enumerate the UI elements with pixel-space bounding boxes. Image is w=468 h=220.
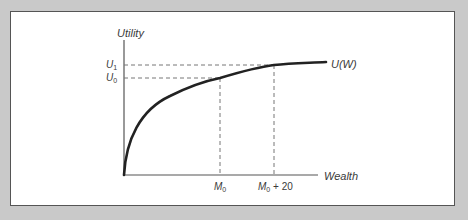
u1-tick-label: U1 (106, 59, 117, 71)
utility-curve (124, 62, 326, 175)
y-axis-label: Utility (117, 27, 145, 39)
m0-plus-20-tick-label: M0 + 20 (258, 181, 293, 193)
x-axis-label: Wealth (324, 170, 358, 182)
utility-chart: Utility Wealth U(W) U1 U0 M0 M0 + 20 (0, 0, 468, 220)
m0-tick-label: M0 (214, 181, 226, 193)
u0-tick-label: U0 (106, 72, 117, 84)
curve-label: U(W) (331, 58, 357, 70)
